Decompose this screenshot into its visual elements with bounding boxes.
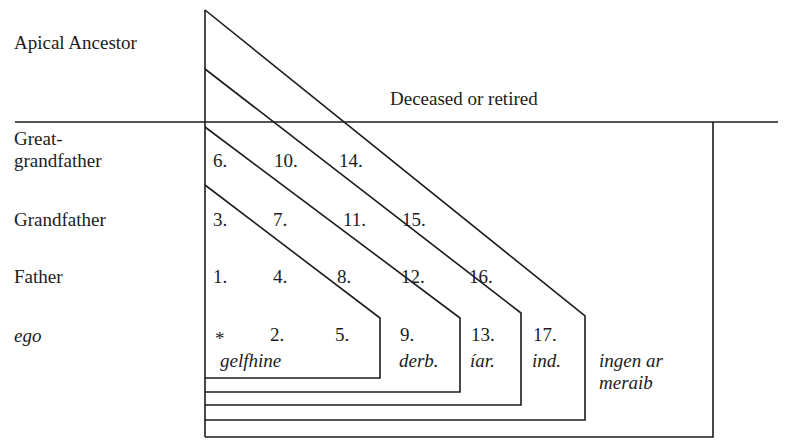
cell-6: 6.: [213, 150, 227, 172]
group-ind: ind.: [532, 350, 561, 372]
label-deceased-retired: Deceased or retired: [390, 88, 538, 110]
group-ingen-ar-meraib-2: meraib: [599, 372, 653, 394]
cell-5: 5.: [335, 324, 349, 346]
cell-8: 8.: [337, 266, 351, 288]
cell-11: 11.: [343, 209, 366, 231]
cell-14: 14.: [339, 150, 363, 172]
cell-1: 1.: [213, 266, 227, 288]
cell-15: 15.: [402, 209, 426, 231]
cell-16: 16.: [469, 266, 493, 288]
label-father: Father: [14, 266, 63, 288]
label-apical-ancestor: Apical Ancestor: [14, 32, 137, 54]
group-derb: derb.: [399, 350, 439, 372]
cell-4: 4.: [273, 266, 287, 288]
cell-3: 3.: [213, 209, 227, 231]
group-gelfhine: gelfhine: [220, 350, 281, 372]
group-iar: íar.: [470, 350, 495, 372]
cell-12: 12.: [401, 266, 425, 288]
ego-marker: *: [215, 328, 225, 350]
cell-17: 17.: [533, 324, 557, 346]
label-great-grandfather-2: grandfather: [14, 150, 102, 172]
cell-13: 13.: [471, 324, 495, 346]
label-grandfather: Grandfather: [14, 209, 106, 231]
kinship-diagram-lines: [0, 0, 785, 445]
cell-9: 9.: [400, 324, 414, 346]
label-ego: ego: [14, 325, 41, 347]
cell-2: 2.: [270, 324, 284, 346]
cell-10: 10.: [274, 150, 298, 172]
group-ingen-ar-meraib-1: ingen ar: [599, 350, 663, 372]
label-great-grandfather-1: Great-: [14, 128, 63, 150]
cell-7: 7.: [273, 209, 287, 231]
